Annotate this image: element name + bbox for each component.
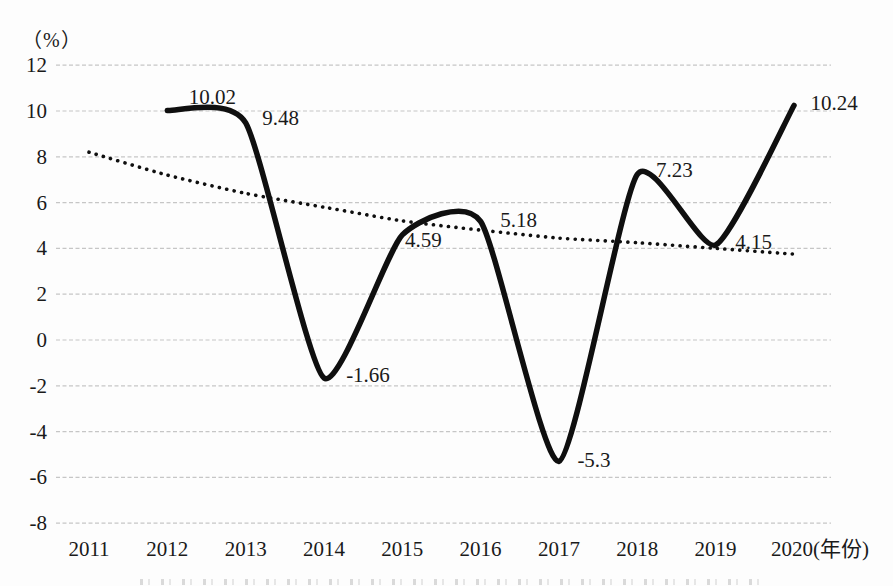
x-tick-label: 2014 (303, 537, 346, 561)
cropped-caption-fragment (140, 579, 760, 585)
x-tick-label: 2018 (616, 537, 658, 561)
data-label: 9.48 (262, 106, 299, 130)
y-tick-label: 4 (37, 236, 48, 260)
y-tick-label: -2 (30, 374, 48, 398)
y-tick-label: 12 (26, 53, 47, 77)
y-tick-label: -6 (30, 465, 48, 489)
data-label: 4.59 (405, 228, 442, 252)
x-tick-labels-group: 2011201220132014201520162017201820192020… (68, 537, 869, 561)
growth-rate-line-chart: 121086420-2-4-6-820112012201320142015201… (0, 0, 893, 586)
data-label: 10.24 (810, 91, 858, 115)
y-tick-label: -4 (30, 420, 48, 444)
gridlines-group (56, 65, 831, 523)
y-tick-label: 2 (37, 282, 48, 306)
x-tick-label: 2016 (460, 537, 502, 561)
x-tick-label: 2019 (695, 537, 737, 561)
x-tick-label: 2012 (146, 537, 188, 561)
data-label: 4.15 (735, 230, 772, 254)
data-label: 5.18 (500, 208, 537, 232)
y-tick-label: 6 (37, 191, 48, 215)
data-label: -1.66 (346, 363, 390, 387)
solid-series-line (167, 106, 794, 462)
y-tick-label: 10 (26, 99, 47, 123)
x-tick-label: 2020(年份) (771, 537, 869, 561)
x-tick-label: 2015 (381, 537, 423, 561)
x-tick-label: 2013 (225, 537, 267, 561)
y-tick-label: -8 (30, 511, 48, 535)
y-tick-label: 8 (37, 145, 48, 169)
x-tick-label: 2011 (68, 537, 109, 561)
y-tick-label: 0 (37, 328, 48, 352)
y-tick-labels-group: 121086420-2-4-6-8 (26, 53, 48, 535)
x-tick-label: 2017 (538, 537, 580, 561)
data-label: 7.23 (656, 158, 693, 182)
data-label: -5.3 (577, 448, 610, 472)
chart-page: （%） 121086420-2-4-6-82011201220132014201… (0, 0, 893, 586)
data-label: 10.02 (189, 85, 236, 109)
